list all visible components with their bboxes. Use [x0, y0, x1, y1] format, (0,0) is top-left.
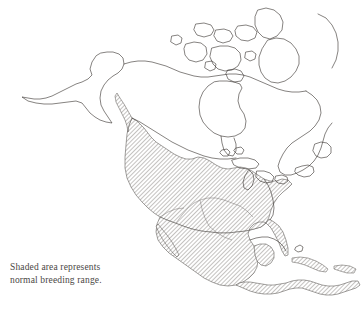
caption-line-2: normal breeding range.	[10, 274, 160, 287]
caption-line-1: Shaded area represents	[10, 261, 160, 274]
range-map-page: Shaded area represents normal breeding r…	[0, 0, 364, 312]
map-caption: Shaded area represents normal breeding r…	[10, 261, 160, 287]
